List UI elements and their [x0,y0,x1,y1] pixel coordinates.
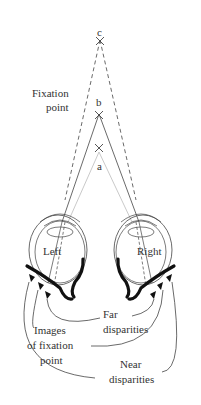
point-a-label: a [97,160,102,172]
point-c-label: c [97,26,102,38]
images-label-3: point [40,354,63,366]
near-label-2: disparities [109,373,154,385]
cross-b-icon [95,111,103,119]
disparity-diagram: c b a Fixation point Left Right [0,0,201,405]
far-label-1: Far [103,308,118,320]
cross-a-icon [95,144,103,152]
point-b-label: b [96,96,102,108]
far-label-2: disparities [103,323,148,335]
near-label-1: Near [120,358,142,370]
left-eye-label: Left [43,245,61,257]
images-label-1: Images [34,324,66,336]
point-markers [95,37,104,152]
fixation-label-1: Fixation [32,87,69,99]
right-eye-label: Right [137,245,161,257]
cross-c-icon [96,37,104,45]
fixation-label-2: point [46,101,69,113]
images-label-2: of fixation [27,339,74,351]
